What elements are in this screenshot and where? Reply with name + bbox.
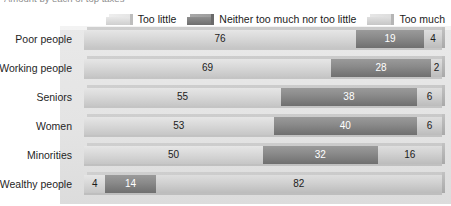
legend-label: Too much xyxy=(399,14,445,25)
segment-value: 40 xyxy=(340,121,351,131)
bar-shadow xyxy=(84,193,442,195)
stacked-bar: 50 32 16 xyxy=(84,146,442,164)
segment-too-much[interactable]: 6 xyxy=(417,117,442,135)
segment-value: 2 xyxy=(434,63,440,73)
stacked-bar: 69 28 2 xyxy=(84,59,442,77)
category-label: Seniors xyxy=(0,84,76,109)
segment-value: 16 xyxy=(404,150,415,160)
segment-too-much[interactable]: 6 xyxy=(417,88,442,106)
segment-too-much[interactable]: 4 xyxy=(424,30,442,48)
category-label: Wealthy people xyxy=(0,171,76,196)
segment-value: 6 xyxy=(427,121,433,131)
table-row: Working people 69 28 2 xyxy=(0,55,451,80)
segment-too-little[interactable]: 50 xyxy=(84,146,263,164)
bar-rows: Poor people 76 19 4 Working people xyxy=(0,26,451,204)
stacked-bar: 53 40 6 xyxy=(84,117,442,135)
bar-shadow xyxy=(84,77,442,79)
category-label: Poor people xyxy=(0,26,76,51)
table-row: Wealthy people 4 14 82 xyxy=(0,171,451,196)
legend-label: Neither too much nor too little xyxy=(219,14,356,25)
segment-value: 55 xyxy=(177,92,188,102)
legend-label: Too little xyxy=(138,14,177,25)
table-row: Poor people 76 19 4 xyxy=(0,26,451,51)
category-label: Working people xyxy=(0,55,76,80)
stacked-bar: 76 19 4 xyxy=(84,30,442,48)
segment-too-little[interactable]: 53 xyxy=(84,117,274,135)
segment-too-much[interactable]: 82 xyxy=(156,175,442,193)
legend-item-too-much[interactable]: Too much xyxy=(367,14,445,25)
segment-value: 50 xyxy=(168,150,179,160)
segment-value: 32 xyxy=(315,150,326,160)
segment-value: 28 xyxy=(376,63,387,73)
segment-value: 82 xyxy=(293,179,304,189)
segment-neither[interactable]: 14 xyxy=(105,175,155,193)
table-row: Minorities 50 32 16 xyxy=(0,142,451,167)
bar-shadow xyxy=(84,135,442,137)
legend-swatch-3d-icon xyxy=(367,14,394,25)
legend-swatch-3d-icon xyxy=(187,14,214,25)
bar-end-cap xyxy=(442,85,445,106)
segment-value: 19 xyxy=(385,34,396,44)
bar-shadow xyxy=(84,106,442,108)
category-label: Women xyxy=(0,113,76,138)
segment-value: 69 xyxy=(202,63,213,73)
segment-too-little[interactable]: 69 xyxy=(84,59,331,77)
legend-swatch-3d-icon xyxy=(106,14,133,25)
segment-too-little[interactable]: 4 xyxy=(84,175,105,193)
legend-item-neither[interactable]: Neither too much nor too little xyxy=(187,14,356,25)
bar-shadow xyxy=(84,164,442,166)
segment-value: 76 xyxy=(214,34,225,44)
segment-value: 38 xyxy=(343,92,354,102)
segment-too-much[interactable]: 16 xyxy=(378,146,442,164)
table-row: Seniors 55 38 6 xyxy=(0,84,451,109)
bar-shadow xyxy=(84,48,442,50)
segment-too-little[interactable]: 55 xyxy=(84,88,281,106)
segment-value: 53 xyxy=(173,121,184,131)
segment-neither[interactable]: 28 xyxy=(331,59,431,77)
bar-end-cap xyxy=(442,143,445,164)
category-label: Minorities xyxy=(0,142,76,167)
segment-value: 4 xyxy=(430,34,436,44)
segment-value: 4 xyxy=(92,179,98,189)
segment-neither[interactable]: 40 xyxy=(274,117,417,135)
stacked-bar-chart: Amount by each of top taxes Too little N… xyxy=(0,0,451,206)
stacked-bar: 55 38 6 xyxy=(84,88,442,106)
bar-end-cap xyxy=(442,56,445,77)
bar-end-cap xyxy=(442,27,445,48)
segment-too-much[interactable]: 2 xyxy=(431,59,442,77)
segment-neither[interactable]: 32 xyxy=(263,146,378,164)
segment-value: 14 xyxy=(125,179,136,189)
bar-end-cap xyxy=(442,114,445,135)
segment-too-little[interactable]: 76 xyxy=(84,30,356,48)
segment-neither[interactable]: 19 xyxy=(356,30,424,48)
segment-neither[interactable]: 38 xyxy=(281,88,417,106)
legend-item-too-little[interactable]: Too little xyxy=(106,14,177,25)
table-row: Women 53 40 6 xyxy=(0,113,451,138)
segment-value: 6 xyxy=(427,92,433,102)
page-title: Amount by each of top taxes xyxy=(4,0,204,5)
stacked-bar: 4 14 82 xyxy=(84,175,442,193)
bar-end-cap xyxy=(442,172,445,193)
